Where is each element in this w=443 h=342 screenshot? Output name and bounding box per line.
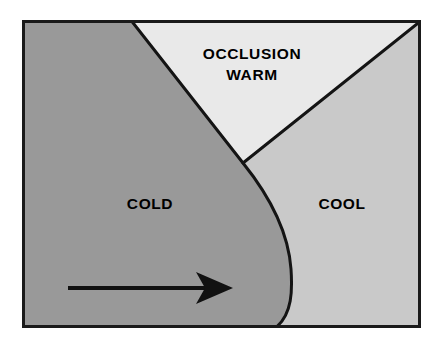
diagram-canvas: COLD OCCLUSION WARM COOL bbox=[0, 0, 443, 342]
label-warm: WARM bbox=[226, 66, 277, 83]
label-cold: COLD bbox=[127, 195, 173, 212]
label-cool: COOL bbox=[318, 195, 365, 212]
label-occlusion: OCCLUSION bbox=[203, 45, 301, 62]
occlusion-diagram: COLD OCCLUSION WARM COOL bbox=[0, 0, 443, 342]
